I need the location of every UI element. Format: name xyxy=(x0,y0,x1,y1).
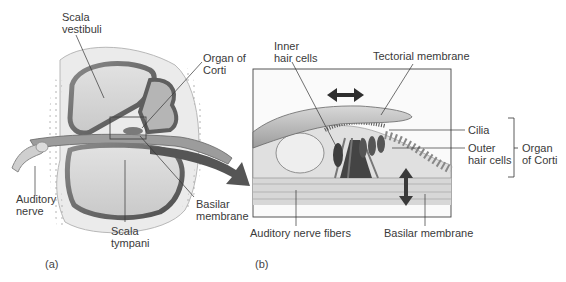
label-organ-of-corti-b: Organ of Corti xyxy=(522,142,557,166)
label-auditory-nerve: Auditory nerve xyxy=(16,193,56,217)
label-organ-of-corti-a: Organ of Corti xyxy=(203,52,246,76)
panel-a-id: (a) xyxy=(45,258,58,270)
panel-b-id: (b) xyxy=(255,258,268,270)
label-tectorial-membrane: Tectorial membrane xyxy=(373,50,470,62)
label-auditory-nerve-fibers: Auditory nerve fibers xyxy=(250,227,351,239)
label-basilar-membrane-b: Basilar membrane xyxy=(384,227,473,239)
label-scala-vestibuli: Scala vestibuli xyxy=(62,11,102,35)
label-outer-hair-cells: Outer hair cells xyxy=(468,142,511,166)
label-basilar-membrane-a: Basilar membrane xyxy=(196,198,249,222)
label-scala-tympani: Scala tympani xyxy=(111,225,150,249)
label-cilia: Cilia xyxy=(468,124,489,136)
label-inner-hair-cells: Inner hair cells xyxy=(274,40,317,64)
